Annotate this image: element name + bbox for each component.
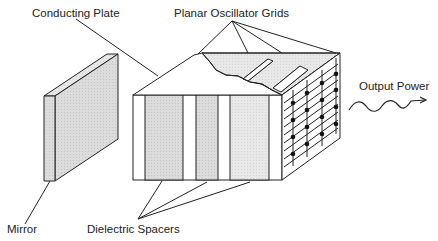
label-planar-oscillator-grids: Planar Oscillator Grids: [174, 8, 289, 20]
dielectric-spacer-2: [196, 95, 218, 180]
stack-front-face: [133, 95, 282, 180]
dielectric-spacer-1: [145, 95, 183, 180]
label-mirror: Mirror: [7, 224, 37, 236]
leader-mirror: [25, 181, 50, 224]
oscillator-diagram: [0, 0, 438, 241]
dielectric-spacer-3: [230, 95, 269, 180]
label-output-power: Output Power: [359, 81, 429, 93]
leader-spacer-1: [138, 181, 162, 219]
label-conducting-plate: Conducting Plate: [32, 8, 120, 20]
mirror: [44, 54, 118, 181]
label-dielectric-spacers: Dielectric Spacers: [87, 224, 180, 236]
leader-spacer-3: [138, 182, 250, 219]
diagram-canvas: Conducting Plate Planar Oscillator Grids…: [0, 0, 438, 241]
leader-grid-4: [232, 21, 336, 53]
leader-spacer-2: [138, 182, 207, 219]
output-wave-arrow-icon: [349, 97, 426, 111]
leader-grid-1: [198, 21, 232, 54]
